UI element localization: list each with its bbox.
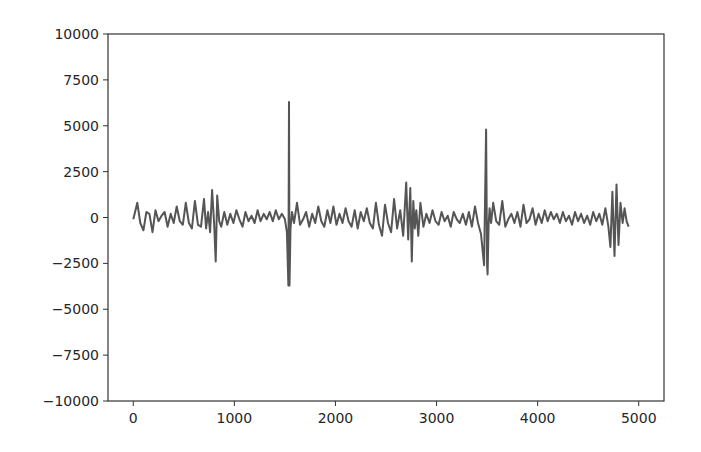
y-tick-label: 5000 (63, 118, 99, 134)
x-tick-label: 2000 (318, 410, 354, 426)
x-tick-label: 4000 (520, 410, 556, 426)
x-tick-label: 1000 (217, 410, 253, 426)
y-tick-label: 7500 (63, 72, 99, 88)
y-tick-label: 0 (90, 210, 99, 226)
y-tick-label: −10000 (43, 393, 99, 409)
y-tick-label: −7500 (52, 347, 99, 363)
y-tick-label: 10000 (54, 26, 99, 42)
y-tick-label: 2500 (63, 164, 99, 180)
y-tick-label: −2500 (52, 255, 99, 271)
x-tick-label: 0 (129, 410, 138, 426)
y-tick-label: −5000 (52, 301, 99, 317)
signal-line-chart: 100007500500025000−2500−5000−7500−10000 … (0, 0, 701, 452)
x-tick-label: 3000 (419, 410, 455, 426)
x-tick-label: 5000 (621, 410, 657, 426)
